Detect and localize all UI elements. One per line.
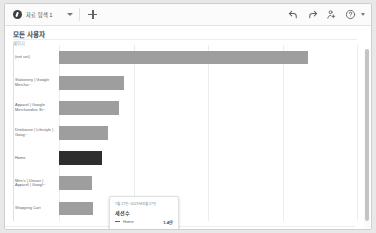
report-canvas: 모든 사용자 페이지 (not set)Stationery | Google … — [5, 26, 371, 229]
bar-category-label: Shopping Cart — [15, 206, 57, 211]
plus-icon[interactable] — [86, 8, 99, 21]
plot-area: (not set)Stationery | Google Mercha~Appa… — [13, 45, 357, 221]
tooltip-series-row: Home 1.4만 — [115, 219, 173, 225]
chevron-down-icon[interactable] — [361, 13, 365, 16]
tooltip-date-range: 7월 27일~2023년 8월 27일 — [115, 201, 173, 206]
person-share-icon[interactable] — [325, 9, 337, 21]
bar-fill[interactable] — [59, 76, 124, 90]
bar-row[interactable]: Men's | Unisex | Apparel | Googl~ — [13, 176, 357, 190]
bar-row[interactable]: Home — [13, 151, 357, 165]
page-title: 모든 사용자 — [13, 29, 45, 39]
bar-category-label: Men's | Unisex | Apparel | Googl~ — [15, 179, 57, 188]
toolbar-actions — [287, 9, 371, 21]
bar-fill[interactable] — [59, 176, 92, 190]
tab-explore-1-label: 자료 탐색 1 — [26, 11, 52, 18]
tab-explore-1[interactable]: 자료 탐색 1 — [10, 7, 55, 23]
chevron-down-icon[interactable] — [67, 13, 73, 16]
tab-divider — [79, 8, 80, 21]
bar-fill[interactable] — [59, 202, 93, 216]
bar-category-label: (not set) — [15, 55, 57, 60]
bar-fill[interactable] — [59, 51, 308, 65]
title-divider — [13, 39, 357, 40]
bar-series: (not set)Stationery | Google Mercha~Appa… — [13, 45, 357, 221]
bar-fill[interactable] — [59, 126, 108, 140]
bar-category-label: Home — [15, 156, 57, 161]
bar-row[interactable]: Drinkware | Lifestyle | Goog~ — [13, 126, 357, 140]
redo-icon[interactable] — [306, 9, 318, 21]
tab-strip: 자료 탐색 1 — [5, 4, 99, 25]
tooltip-series-name: Home — [123, 219, 134, 224]
tooltip-series-value: 1.4만 — [163, 219, 173, 225]
tooltip-metric-label: 세션수 — [115, 209, 173, 216]
tooltip-series-swatch — [115, 221, 120, 223]
vertical-scrollbar-track[interactable] — [364, 49, 370, 228]
bar-category-label: Drinkware | Lifestyle | Goog~ — [15, 128, 57, 137]
bar-row[interactable]: Apparel | Google Merchandise St~ — [13, 101, 357, 115]
help-circle-icon[interactable] — [344, 9, 356, 21]
undo-icon[interactable] — [287, 9, 299, 21]
canvas-bottom-divider — [5, 226, 355, 227]
bar-fill[interactable] — [59, 151, 102, 165]
app-window: 자료 탐색 1 — [4, 3, 372, 230]
vertical-scrollbar-thumb[interactable] — [365, 49, 369, 221]
bar-row[interactable]: Stationery | Google Mercha~ — [13, 76, 357, 90]
chart-tooltip: 7월 27일~2023년 8월 27일 세션수 Home 1.4만 — [109, 196, 179, 229]
gridline — [357, 45, 358, 221]
bar-row[interactable]: Shopping Cart — [13, 202, 357, 216]
bar-row[interactable]: (not set) — [13, 51, 357, 65]
bar-chart-card[interactable]: 모든 사용자 페이지 (not set)Stationery | Google … — [5, 26, 363, 229]
bar-category-label: Stationery | Google Mercha~ — [15, 78, 57, 87]
explore-badge-icon — [13, 10, 22, 19]
bar-category-label: Apparel | Google Merchandise St~ — [15, 103, 57, 112]
toolbar: 자료 탐색 1 — [5, 4, 371, 26]
bar-fill[interactable] — [59, 101, 119, 115]
